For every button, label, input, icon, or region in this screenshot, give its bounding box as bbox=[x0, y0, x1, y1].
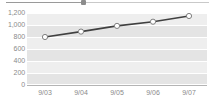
x-axis-line bbox=[27, 85, 207, 86]
x-tick-label: 9/05 bbox=[110, 88, 124, 97]
y-tick-label: 600 bbox=[0, 45, 25, 52]
y-tick-label: 1,000 bbox=[0, 21, 25, 28]
y-tick-label: 0 bbox=[0, 81, 25, 88]
x-tick-label: 9/04 bbox=[74, 88, 88, 97]
x-axis-labels: 9/039/049/059/069/07 bbox=[27, 88, 207, 100]
data-point-marker[interactable] bbox=[150, 19, 155, 24]
data-point-marker[interactable] bbox=[114, 23, 119, 28]
y-tick-label: 1,200 bbox=[0, 9, 25, 16]
line-chart-widget: 1,2001,0008006004002000 9/039/049/059/06… bbox=[0, 0, 215, 102]
scrollbar-thumb[interactable] bbox=[81, 0, 86, 5]
data-point-marker[interactable] bbox=[78, 29, 83, 34]
y-tick-label: 800 bbox=[0, 33, 25, 40]
x-tick-label: 9/06 bbox=[146, 88, 160, 97]
data-point-marker[interactable] bbox=[186, 13, 191, 18]
y-tick-label: 400 bbox=[0, 57, 25, 64]
x-tick-label: 9/07 bbox=[182, 88, 196, 97]
y-axis-labels: 1,2001,0008006004002000 bbox=[0, 0, 25, 102]
data-point-marker[interactable] bbox=[42, 34, 47, 39]
horizontal-scrollbar[interactable] bbox=[0, 0, 215, 5]
y-tick-label: 200 bbox=[0, 69, 25, 76]
series-line-layer bbox=[27, 13, 207, 85]
x-tick-label: 9/03 bbox=[38, 88, 52, 97]
